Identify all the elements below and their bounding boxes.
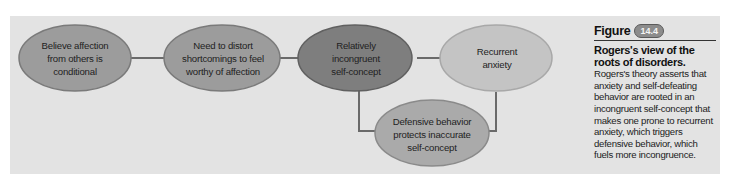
- node-label-believe-affection: Believe affectionfrom others iscondition…: [22, 34, 128, 82]
- caption-text: Rogers's view of the roots of disorders.…: [594, 45, 716, 161]
- label-line: self-concept: [331, 65, 380, 78]
- node-label-incongruent: Relativelyincongruentself-concept: [300, 34, 412, 82]
- label-line: from others is: [42, 52, 109, 65]
- label-line: Relatively: [331, 39, 380, 52]
- label-line: conditional: [42, 65, 109, 78]
- figure-number-badge: 14.4: [634, 24, 664, 38]
- figure-heading: Figure 14.4: [594, 22, 716, 41]
- caption-body: Rogers's theory asserts that anxiety and…: [594, 68, 713, 160]
- label-line: protects inaccurate: [393, 128, 472, 141]
- label-line: incongruent: [331, 52, 380, 65]
- label-line: Believe affection: [42, 39, 109, 52]
- figure-word: Figure: [594, 24, 630, 38]
- caption-title: Rogers's view of the roots of disorders.: [594, 44, 695, 68]
- label-line: Need to distort: [182, 39, 264, 52]
- node-label-need-to-distort: Need to distortshortcomings to feelworth…: [167, 34, 279, 82]
- figure-caption: Figure 14.4 Rogers's view of the roots o…: [594, 22, 716, 161]
- node-label-recurrent-anxiety: Recurrentanxiety: [442, 40, 552, 76]
- label-line: self-concept: [393, 141, 472, 154]
- label-line: Recurrent: [477, 45, 517, 58]
- node-label-defensive-behavior: Defensive behaviorprotects inaccuratesel…: [376, 110, 488, 158]
- label-line: anxiety: [477, 58, 517, 71]
- label-line: Defensive behavior: [393, 115, 472, 128]
- label-line: shortcomings to feel: [182, 52, 264, 65]
- label-line: worthy of affection: [182, 65, 264, 78]
